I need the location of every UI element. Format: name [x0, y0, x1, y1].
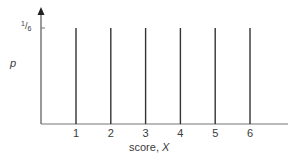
y-tick-label: 1/6 [21, 20, 31, 32]
x-axis-label-variable: X [162, 141, 169, 153]
y-axis-arrow-icon [38, 7, 45, 15]
x-tick-label-5: 5 [212, 127, 218, 139]
x-tick-label-1: 1 [73, 127, 79, 139]
x-tick-label-4: 4 [177, 127, 183, 139]
x-axis-label: score, X [129, 142, 169, 153]
x-axis-label-text: score, [129, 141, 162, 153]
x-tick-label-3: 3 [143, 127, 149, 139]
x-tick-label-6: 6 [247, 127, 253, 139]
spikes-group [76, 28, 250, 124]
y-axis-label: p [10, 58, 16, 69]
y-tick-numerator: 1 [21, 20, 25, 27]
y-tick-denominator: 6 [27, 25, 31, 32]
x-tick-label-2: 2 [108, 127, 114, 139]
